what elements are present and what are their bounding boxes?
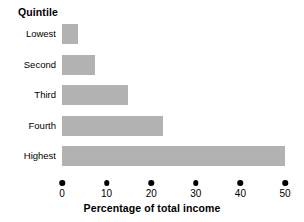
bar-row xyxy=(62,24,285,44)
axis-tick-label: 40 xyxy=(235,188,246,200)
axis-tick-dot xyxy=(193,180,199,186)
axis-tick-dot xyxy=(104,180,110,186)
category-label: Lowest xyxy=(0,24,56,44)
axis-tick-dot xyxy=(59,180,65,186)
category-label: Second xyxy=(0,55,56,75)
bar-row xyxy=(62,116,285,136)
value-axis-title: Percentage of total income xyxy=(0,202,304,214)
axis-tick-label: 0 xyxy=(59,188,65,200)
axis-tick-label: 30 xyxy=(190,188,201,200)
bar-chart: Quintile Percentage of total income Lowe… xyxy=(0,0,304,222)
axis-tick-label: 20 xyxy=(146,188,157,200)
bar xyxy=(62,24,78,44)
bar-row xyxy=(62,85,285,105)
axis-tick-label: 10 xyxy=(101,188,112,200)
bar-row xyxy=(62,146,285,166)
category-label: Highest xyxy=(0,146,56,166)
bar xyxy=(62,85,128,105)
bar xyxy=(62,116,163,136)
axis-tick-dot xyxy=(282,180,288,186)
category-label: Fourth xyxy=(0,116,56,136)
bar xyxy=(62,55,95,75)
plot-area xyxy=(62,24,285,176)
bar xyxy=(62,146,285,166)
category-axis-title: Quintile xyxy=(18,6,58,19)
axis-tick-dot xyxy=(238,180,244,186)
axis-tick-label: 50 xyxy=(279,188,290,200)
bar-row xyxy=(62,55,285,75)
axis-tick-dot xyxy=(148,180,154,186)
category-label: Third xyxy=(0,85,56,105)
